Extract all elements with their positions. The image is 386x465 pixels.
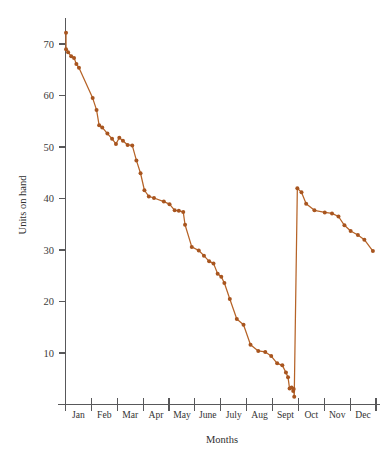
data-point [222, 281, 226, 285]
data-point [330, 211, 334, 215]
data-point [147, 194, 151, 198]
data-point [342, 223, 346, 227]
data-point [284, 371, 288, 375]
data-point [323, 210, 327, 214]
data-point [173, 208, 177, 212]
data-point [110, 137, 114, 141]
x-month-label-jan: Jan [72, 409, 85, 420]
data-point [117, 136, 121, 140]
x-axis-title: Months [206, 434, 238, 445]
data-point [280, 363, 284, 367]
x-month-label-mar: Mar [122, 409, 139, 420]
data-point [197, 249, 201, 253]
data-point [295, 186, 299, 190]
data-point [152, 196, 156, 200]
data-point [207, 259, 211, 263]
data-point [181, 210, 185, 214]
data-point [212, 261, 216, 265]
x-month-label-sept: Sept [277, 409, 294, 420]
data-point [74, 62, 78, 66]
data-point [77, 66, 81, 70]
data-point [256, 349, 260, 353]
y-tick-label: 50 [44, 142, 55, 153]
data-point [130, 143, 134, 147]
data-point [312, 208, 316, 212]
inventory-line-chart: 10203040506070 JanFebMarAprMayJuneJulyAu… [0, 0, 386, 465]
y-axis-ticks [59, 44, 66, 353]
y-axis-tick-labels: 10203040506070 [44, 39, 55, 359]
x-month-label-june: June [199, 409, 217, 420]
y-tick-label: 30 [44, 245, 55, 256]
data-point [64, 31, 68, 35]
x-month-label-feb: Feb [97, 409, 112, 420]
y-tick-label: 10 [44, 348, 55, 359]
data-point [242, 323, 246, 327]
x-month-label-oct: Oct [304, 409, 318, 420]
data-point [269, 354, 273, 358]
x-month-label-apr: Apr [149, 409, 165, 420]
x-month-label-dec: Dec [355, 409, 370, 420]
data-point [121, 139, 125, 143]
data-point [299, 190, 303, 194]
data-point [126, 143, 130, 147]
series-line [66, 33, 373, 397]
data-point [95, 108, 99, 112]
data-point [219, 275, 223, 279]
y-tick-label: 40 [44, 193, 55, 204]
data-point [105, 132, 109, 136]
chart-canvas: 10203040506070 JanFebMarAprMayJuneJulyAu… [0, 0, 386, 465]
data-point [72, 56, 76, 60]
x-month-label-july: July [226, 409, 242, 420]
data-point [336, 215, 340, 219]
data-point [183, 223, 187, 227]
data-point [190, 245, 194, 249]
y-axis-title: Units on hand [17, 175, 28, 235]
x-month-label-may: May [173, 409, 191, 420]
data-point [114, 142, 118, 146]
data-point [356, 233, 360, 237]
data-point [292, 387, 296, 391]
x-month-label-aug: Aug [251, 409, 268, 420]
data-point [202, 254, 206, 258]
data-point [100, 125, 104, 129]
data-point [168, 202, 172, 206]
data-point [263, 350, 267, 354]
data-series-group [64, 31, 375, 399]
data-point [139, 171, 143, 175]
data-point [249, 343, 253, 347]
data-point [134, 158, 138, 162]
y-tick-label: 20 [44, 296, 55, 307]
data-point [142, 188, 146, 192]
data-point [286, 375, 290, 379]
data-point [275, 361, 279, 365]
data-point [304, 202, 308, 206]
data-point [362, 238, 366, 242]
data-point [66, 50, 70, 54]
data-point [162, 200, 166, 204]
x-month-label-nov: Nov [329, 409, 346, 420]
data-point [235, 317, 239, 321]
data-point [216, 272, 220, 276]
y-tick-label: 70 [44, 39, 55, 50]
y-tick-label: 60 [44, 90, 55, 101]
data-point [349, 229, 353, 233]
data-point [91, 96, 95, 100]
data-point [371, 249, 375, 253]
data-point [292, 395, 296, 399]
data-point [228, 297, 232, 301]
data-point [177, 209, 181, 213]
